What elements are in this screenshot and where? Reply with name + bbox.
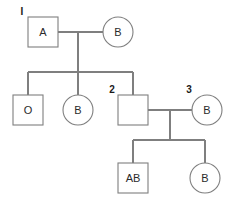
individual-label-b-gen1: B xyxy=(114,26,121,38)
pedigree-chart: A I B O B 2 B 3 AB xyxy=(0,0,237,203)
individual-label-b-gen3: B xyxy=(201,172,208,184)
individual-id-one: I xyxy=(21,6,24,17)
individual-label-b-three: B xyxy=(203,104,210,116)
individual-id-two: 2 xyxy=(109,84,115,95)
individual-id-three: 3 xyxy=(186,84,192,95)
individual-square-two[interactable] xyxy=(118,95,148,125)
individual-label-a: A xyxy=(39,26,47,38)
individual-label-b-gen2: B xyxy=(74,104,81,116)
individual-label-ab: AB xyxy=(126,172,141,184)
individual-label-o: O xyxy=(24,104,33,116)
pedigree-canvas: A I B O B 2 B 3 AB xyxy=(0,0,237,203)
